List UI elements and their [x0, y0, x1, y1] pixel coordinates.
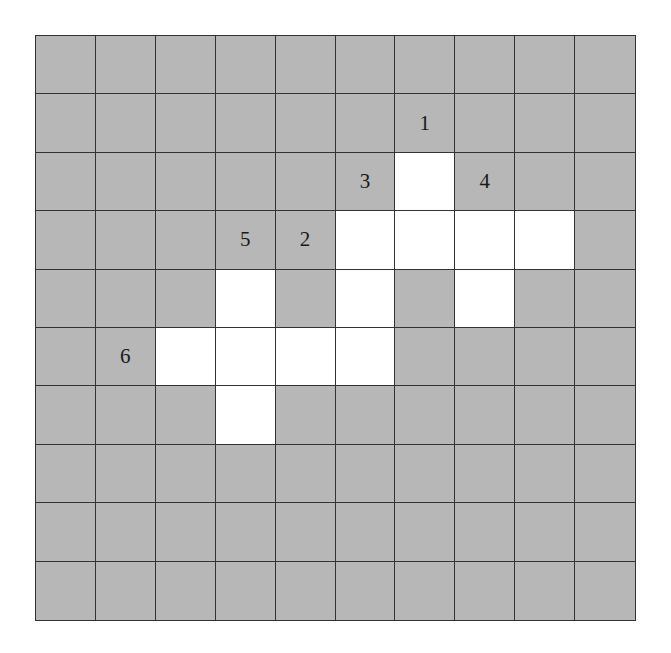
grid-cell-blocked: [276, 153, 336, 211]
grid-cell-blocked: [36, 445, 96, 503]
grid-cell-blocked: [96, 94, 156, 152]
crossword-grid: 134526: [35, 35, 636, 621]
grid-cell-blocked: [575, 328, 635, 386]
grid-cell-open[interactable]: [276, 328, 336, 386]
grid-cell-blocked: [395, 386, 455, 444]
grid-cell-blocked: [575, 94, 635, 152]
grid-cell-blocked: [395, 562, 455, 620]
grid-cell-blocked: [336, 562, 396, 620]
grid-cell-blocked: [156, 36, 216, 94]
grid-cell-blocked: [156, 503, 216, 561]
grid-cell-blocked: [515, 386, 575, 444]
grid-cell-blocked: [96, 36, 156, 94]
grid-cell-blocked: [96, 153, 156, 211]
grid-cell-open[interactable]: [216, 270, 276, 328]
grid-cell-blocked: [395, 445, 455, 503]
grid-cell-blocked: [216, 562, 276, 620]
grid-cell-open[interactable]: [455, 270, 515, 328]
clue-number: 1: [395, 94, 454, 151]
clue-number: 4: [455, 153, 514, 210]
grid-cell-blocked: [515, 94, 575, 152]
grid-cell-blocked: [276, 445, 336, 503]
grid-cell-blocked: [156, 445, 216, 503]
grid-cell-blocked: [156, 270, 216, 328]
grid-cell-blocked: [276, 386, 336, 444]
grid-cell-blocked: 3: [336, 153, 396, 211]
clue-number: 2: [276, 211, 335, 268]
grid-cell-blocked: [455, 386, 515, 444]
grid-cell-open[interactable]: [336, 328, 396, 386]
grid-cell-blocked: [156, 211, 216, 269]
grid-cell-blocked: 2: [276, 211, 336, 269]
clue-number: 3: [336, 153, 395, 210]
grid-cell-blocked: 4: [455, 153, 515, 211]
grid-cell-blocked: [276, 270, 336, 328]
grid-cell-blocked: [216, 36, 276, 94]
grid-cell-blocked: [515, 445, 575, 503]
grid-cell-open[interactable]: [515, 211, 575, 269]
grid-cell-blocked: [515, 503, 575, 561]
grid-cell-blocked: [216, 445, 276, 503]
grid-cell-blocked: [276, 562, 336, 620]
grid-cell-blocked: [575, 445, 635, 503]
grid-cell-blocked: [36, 36, 96, 94]
grid-cell-blocked: [336, 94, 396, 152]
grid-cell-blocked: [36, 386, 96, 444]
grid-cell-blocked: [336, 503, 396, 561]
clue-number: 6: [96, 328, 155, 385]
grid-cell-open[interactable]: [216, 328, 276, 386]
grid-cell-open[interactable]: [216, 386, 276, 444]
grid-cell-blocked: [276, 94, 336, 152]
grid-cell-blocked: [575, 562, 635, 620]
grid-cell-blocked: [96, 445, 156, 503]
grid-cell-blocked: [336, 36, 396, 94]
grid-cell-open[interactable]: [395, 211, 455, 269]
grid-cell-blocked: [455, 503, 515, 561]
grid-cell-blocked: [455, 445, 515, 503]
grid-cell-open[interactable]: [336, 270, 396, 328]
grid-cell-blocked: [455, 562, 515, 620]
grid-cell-open[interactable]: [395, 153, 455, 211]
grid-cell-blocked: 5: [216, 211, 276, 269]
grid-cell-blocked: [96, 562, 156, 620]
grid-cell-open[interactable]: [455, 211, 515, 269]
grid-cell-blocked: [515, 270, 575, 328]
grid-cell-blocked: [96, 386, 156, 444]
grid-cell-blocked: [515, 153, 575, 211]
grid-cell-blocked: [216, 153, 276, 211]
grid-cell-blocked: [96, 270, 156, 328]
grid-cell-blocked: [575, 270, 635, 328]
grid-cell-blocked: [515, 36, 575, 94]
grid-cell-blocked: [216, 503, 276, 561]
grid-cell-blocked: [336, 445, 396, 503]
grid-cell-open[interactable]: [156, 328, 216, 386]
grid-cell-blocked: [36, 153, 96, 211]
grid-cell-open[interactable]: [336, 211, 396, 269]
grid-cell-blocked: [36, 562, 96, 620]
grid-cell-blocked: [575, 503, 635, 561]
grid-cell-blocked: 1: [395, 94, 455, 152]
grid-cell-blocked: [395, 36, 455, 94]
grid-cell-blocked: [156, 94, 216, 152]
grid-cell-blocked: [336, 386, 396, 444]
grid-cell-blocked: [216, 94, 276, 152]
grid-cell-blocked: [36, 211, 96, 269]
grid-cell-blocked: [276, 36, 336, 94]
grid-cell-blocked: [156, 562, 216, 620]
grid-cell-blocked: [156, 153, 216, 211]
grid-cell-blocked: [156, 386, 216, 444]
grid-cell-blocked: [395, 328, 455, 386]
grid-cell-blocked: [455, 94, 515, 152]
grid-cell-blocked: [395, 270, 455, 328]
grid-cell-blocked: [515, 328, 575, 386]
grid-cell-blocked: [36, 94, 96, 152]
grid-cell-blocked: [455, 328, 515, 386]
grid-cell-blocked: [455, 36, 515, 94]
grid-cell-blocked: [575, 386, 635, 444]
grid-cell-blocked: [575, 211, 635, 269]
grid-cell-blocked: [36, 328, 96, 386]
grid-cell-blocked: [575, 36, 635, 94]
grid-cell-blocked: [515, 562, 575, 620]
grid-cell-blocked: [36, 503, 96, 561]
grid-cell-blocked: [276, 503, 336, 561]
